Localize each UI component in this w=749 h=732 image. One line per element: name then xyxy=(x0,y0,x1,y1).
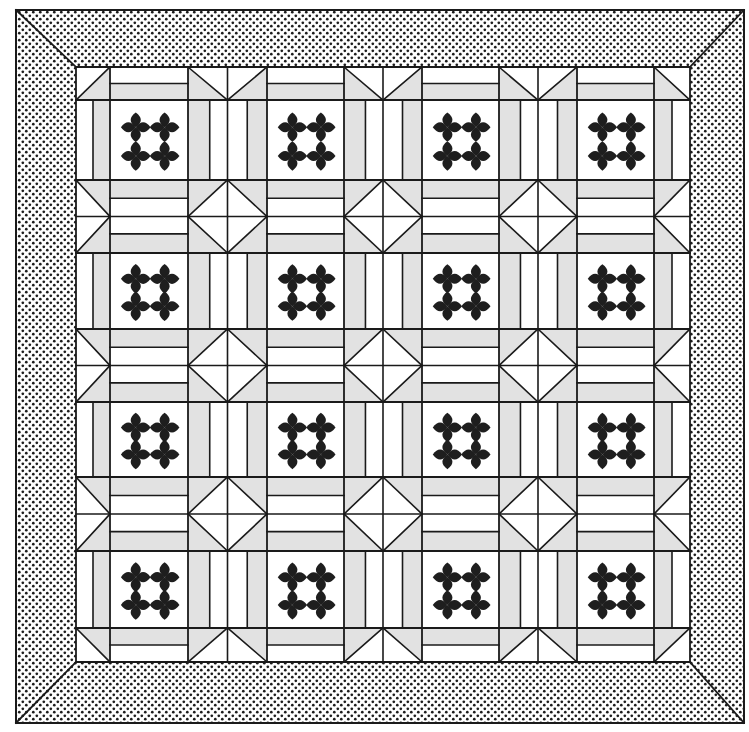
sashing-stripe xyxy=(654,253,672,329)
sashing-stripe xyxy=(93,402,110,477)
sashing-stripe xyxy=(499,253,520,329)
sashing-stripe xyxy=(577,180,654,198)
sashing-stripe xyxy=(558,100,578,180)
sashing-stripe xyxy=(577,477,654,496)
sashing-stripe xyxy=(247,253,267,329)
sashing-stripe xyxy=(267,532,344,551)
sashing-stripe xyxy=(403,402,423,477)
sashing-stripe xyxy=(93,253,110,329)
sashing-stripe xyxy=(188,100,210,180)
sashing-stripe xyxy=(344,253,365,329)
sashing-stripe xyxy=(267,383,344,402)
sashing-stripe xyxy=(422,180,499,198)
sashing-stripe xyxy=(267,628,344,645)
sashing-stripe xyxy=(247,551,267,628)
sashing-stripe xyxy=(577,329,654,347)
sashing-stripe xyxy=(422,477,499,496)
sashing-stripe xyxy=(93,100,110,180)
sashing-stripe xyxy=(110,477,188,496)
sashing-stripe xyxy=(654,551,672,628)
sashing-stripe xyxy=(110,532,188,551)
sashing-stripe xyxy=(654,402,672,477)
quilt-illustration xyxy=(0,0,749,732)
sashing-stripe xyxy=(577,383,654,402)
sashing-stripe xyxy=(577,84,654,101)
sashing-stripe xyxy=(267,84,344,101)
sashing-stripe xyxy=(267,234,344,253)
sashing-stripe xyxy=(188,551,210,628)
sashing-stripe xyxy=(558,551,578,628)
sashing-stripe xyxy=(247,402,267,477)
sashing-stripe xyxy=(577,532,654,551)
sashing-stripe xyxy=(344,551,365,628)
sashing-stripe xyxy=(499,402,520,477)
sashing-stripe xyxy=(422,532,499,551)
sashing-stripe xyxy=(267,477,344,496)
sashing-stripe xyxy=(499,100,520,180)
sashing-stripe xyxy=(422,383,499,402)
sashing-stripe xyxy=(110,234,188,253)
sashing-stripe xyxy=(188,253,210,329)
sashing-stripe xyxy=(403,551,423,628)
sashing-stripe xyxy=(422,628,499,645)
sashing-stripe xyxy=(654,100,672,180)
sashing-stripe xyxy=(422,234,499,253)
sashing-stripe xyxy=(110,383,188,402)
sashing-stripe xyxy=(110,84,188,101)
sashing-stripe xyxy=(422,329,499,347)
sashing-stripe xyxy=(344,100,365,180)
sashing-stripe xyxy=(403,100,423,180)
sashing-stripe xyxy=(247,100,267,180)
sashing-stripe xyxy=(188,402,210,477)
sashing-stripe xyxy=(577,628,654,645)
sashing-stripe xyxy=(577,234,654,253)
sashing-stripe xyxy=(93,551,110,628)
sashing-stripe xyxy=(110,180,188,198)
sashing-stripe xyxy=(422,84,499,101)
sashing-stripe xyxy=(267,329,344,347)
sashing-stripe xyxy=(558,253,578,329)
sashing-stripe xyxy=(558,402,578,477)
sashing-stripe xyxy=(110,628,188,645)
sashing-stripe xyxy=(499,551,520,628)
sashing-stripe xyxy=(344,402,365,477)
sashing-stripe xyxy=(110,329,188,347)
sashing-stripe xyxy=(403,253,423,329)
sashing-stripe xyxy=(267,180,344,198)
